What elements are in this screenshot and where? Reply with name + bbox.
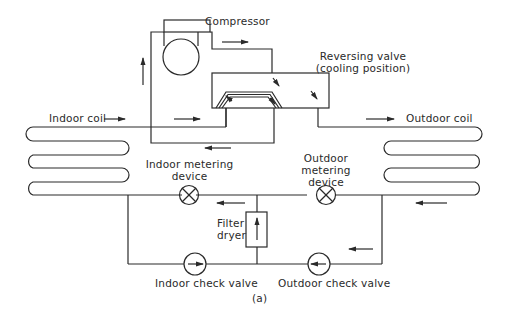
discharge-line [210,32,272,73]
outdoor-metering-label-line3: device [296,176,356,188]
indoor-metering-device-icon [180,186,199,205]
outdoor-metering-label-line1: Outdoor [296,152,356,164]
indoor-metering-device-label: Indoor metering device [142,158,237,182]
outdoor-metering-device-label: Outdoor metering device [296,152,356,188]
refrigerant-circuit-diagram [0,0,508,321]
filter-dryer-label-line1: Filter [217,217,243,229]
indoor-coil-label: Indoor coil [49,112,106,124]
reversing-valve-label: Reversing valve (cooling position) [298,50,428,74]
reversing-valve-label-line1: Reversing valve [298,50,428,62]
filter-dryer-label-line2: dryer [217,229,243,241]
outdoor-check-valve-icon [308,253,330,275]
outdoor-coil-label: Outdoor coil [406,112,473,124]
outdoor-check-valve-label: Outdoor check valve [278,277,390,289]
outdoor-metering-label-line2: metering [296,164,356,176]
indoor-metering-label-line2: device [142,170,237,182]
compressor-icon [163,20,210,75]
compressor-label: Compressor [205,15,270,27]
indoor-check-valve-icon [184,253,206,275]
filter-dryer-label: Filter dryer [217,217,243,241]
figure-caption: (a) [252,292,267,304]
reversing-valve-label-line2: (cooling position) [298,62,428,74]
reversing-valve-icon [212,73,329,127]
filter-dryer-icon [246,212,267,247]
outdoor-metering-device-icon [317,186,336,205]
indoor-metering-label-line1: Indoor metering [142,158,237,170]
indoor-check-valve-label: Indoor check valve [155,277,258,289]
